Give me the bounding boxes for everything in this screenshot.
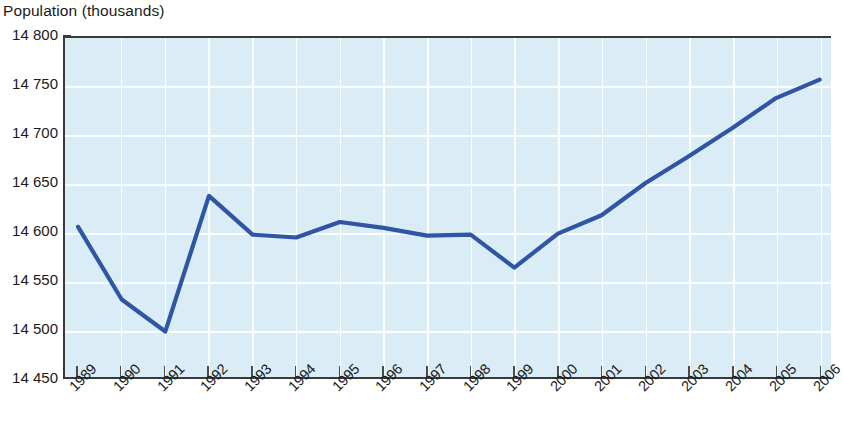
chart-title: Population (thousands) <box>3 2 165 20</box>
y-axis-tick-label-text: 14 600 <box>12 222 58 239</box>
y-axis-tick-label-text: 14 700 <box>12 124 58 141</box>
y-axis-tick-label-text: 14 500 <box>12 320 58 337</box>
plot-area <box>63 36 831 379</box>
y-axis-tick-label-text: 14 550 <box>12 271 58 288</box>
y-axis-tick-label-text: 14 450 <box>12 369 58 386</box>
y-axis-tick-label-text: 14 800 <box>12 26 58 43</box>
y-axis-tick-label-text: 14 750 <box>12 75 58 92</box>
series-line-population <box>65 38 831 377</box>
y-axis-tick-label-text: 14 650 <box>12 173 58 190</box>
